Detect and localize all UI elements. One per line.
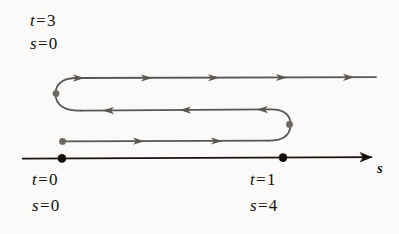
label-t1-value: 1 xyxy=(267,170,276,189)
label-s0top-value: 0 xyxy=(49,34,58,53)
path-marker-left-turn xyxy=(53,90,60,97)
label-s-equals-0-bottom: s=0 xyxy=(32,196,60,216)
s-axis-group xyxy=(22,153,372,162)
s-axis-label: s xyxy=(377,160,383,177)
label-t0-op: = xyxy=(37,170,49,189)
path-segment-left-uturn xyxy=(56,78,82,111)
label-t1-op: = xyxy=(255,170,267,189)
label-s-equals-4: s=4 xyxy=(250,196,278,216)
path-segment-final xyxy=(78,77,376,78)
label-s0top-op: = xyxy=(37,34,49,53)
diagram-canvas xyxy=(0,0,399,234)
label-s0bot-value: 0 xyxy=(51,196,60,215)
label-t0-value: 0 xyxy=(49,170,58,189)
label-t-equals-0: t=0 xyxy=(32,170,58,190)
label-s0bot-var: s xyxy=(32,196,39,215)
s-axis-line xyxy=(22,157,372,158)
axis-point-t0 xyxy=(58,154,67,163)
path-marker-start xyxy=(59,138,66,145)
label-s4-var: s xyxy=(250,196,257,215)
particle-path-group xyxy=(53,74,376,145)
label-s4-op: = xyxy=(257,196,269,215)
label-s-equals-0-top: s=0 xyxy=(30,34,58,54)
label-t3-value: 3 xyxy=(47,11,56,30)
label-t-equals-1: t=1 xyxy=(250,170,276,190)
label-t3-op: = xyxy=(35,11,47,30)
axis-point-t1 xyxy=(279,153,288,162)
motion-diagram-figure: t=3 s=0 t=0 s=0 t=1 s=4 s xyxy=(0,0,399,234)
path-segment-outbound xyxy=(63,141,269,142)
label-s4-value: 4 xyxy=(269,196,278,215)
label-s0top-var: s xyxy=(30,34,37,53)
label-s0bot-op: = xyxy=(39,196,51,215)
label-t-equals-3: t=3 xyxy=(30,11,56,31)
path-marker-right-turn xyxy=(286,121,293,128)
